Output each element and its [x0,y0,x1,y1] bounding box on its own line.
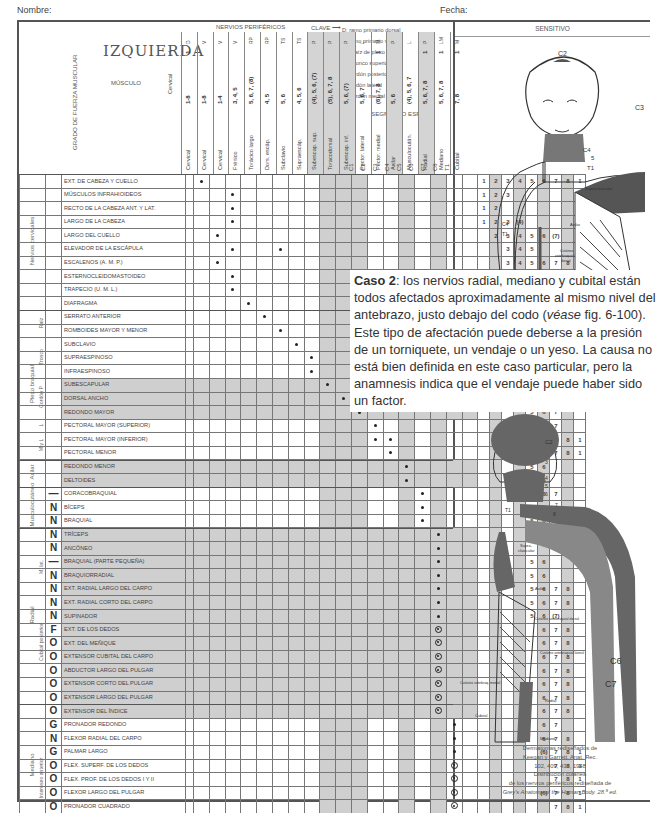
nerve-cell [351,487,367,501]
muscle-grade[interactable] [46,392,62,406]
muscle-grade[interactable]: O [46,773,62,787]
muscle-grade[interactable]: O [46,664,62,678]
muscle-grade[interactable]: G [46,718,62,732]
muscle-grade[interactable]: O [46,677,62,691]
nerve-cell [257,378,273,392]
muscle-grade[interactable]: N [46,542,62,556]
nerve-cell [209,270,225,284]
nerve-cervical-roots: 1-4 [217,95,223,104]
muscle-grade[interactable]: O [46,691,62,705]
nerve-cell [272,229,288,243]
muscle-grade[interactable] [46,338,62,352]
nerve-cell [209,215,225,229]
muscle-grade[interactable] [46,365,62,379]
muscle-grade[interactable] [46,175,62,189]
nerve-cell [304,542,320,556]
muscle-grade[interactable] [46,229,62,243]
nerve-cell [383,460,399,474]
muscle-grade[interactable] [46,406,62,420]
muscle-grade[interactable]: N [46,582,62,596]
nerve-cell [320,338,336,352]
muscle-grade[interactable] [46,460,62,474]
nerve-cell [241,202,257,216]
muscle-grade[interactable] [46,446,62,460]
nerve-cell [415,664,431,678]
nerve-cell [209,351,225,365]
nerve-cell [320,610,336,624]
muscle-grade[interactable]: N [46,501,62,515]
muscle-grade[interactable] [46,270,62,284]
muscle-grade[interactable] [46,351,62,365]
muscle-name: SERRATO ANTERIOR [62,310,186,324]
muscle-grade[interactable]: O [46,759,62,773]
muscle-grade[interactable]: F [46,623,62,637]
case-title: Caso 2 [354,273,396,288]
muscle-grade[interactable] [46,215,62,229]
nerve-cell [320,582,336,596]
muscle-grade[interactable] [46,188,62,202]
nerve-cell [399,637,415,651]
nerve-cell [351,745,367,759]
muscle-grade[interactable]: — [46,487,62,501]
muscle-grade[interactable] [46,433,62,447]
muscle-grade[interactable] [46,283,62,297]
nerve-cell [241,732,257,746]
muscle-grade[interactable] [46,378,62,392]
nerve-code: TS [296,38,302,44]
muscle-grade[interactable] [46,202,62,216]
nerve-cell [288,596,304,610]
nerve-cell [415,650,431,664]
muscle-name: PECTORAL MAYOR (SUPERIOR) [62,419,186,433]
muscle-grade[interactable] [46,256,62,270]
nerve-cell [430,514,446,528]
muscle-grade[interactable]: — [46,555,62,569]
muscle-grade[interactable]: N [46,514,62,528]
muscle-name: BRAQUIAL [62,514,186,528]
nerve-cell [194,691,210,705]
nerve-cell [399,732,415,746]
nerve-cell [209,542,225,556]
muscle-grade[interactable]: N [46,569,62,583]
nerve-cell [383,215,399,229]
nerve-cell [257,732,273,746]
muscle-grade[interactable]: O [46,650,62,664]
nerve-cell [209,650,225,664]
nerve-cell [288,677,304,691]
muscle-grade[interactable]: N [46,732,62,746]
nerve-cell [225,745,241,759]
nerve-name: Cervical [201,150,207,170]
nerve-cell [399,677,415,691]
muscle-grade[interactable]: O [46,705,62,719]
muscle-grade[interactable]: O [46,800,62,813]
nerve-code: V [232,41,238,44]
muscle-grade[interactable]: N [46,610,62,624]
muscle-grade[interactable]: N [46,596,62,610]
muscle-grade[interactable] [46,242,62,256]
nerve-cell [225,310,241,324]
nerve-cell [209,705,225,719]
nerve-cell [225,175,241,189]
segment-header: C6 [408,163,414,171]
muscle-grade[interactable] [46,297,62,311]
muscle-grade[interactable] [46,419,62,433]
nerve-cell [415,474,431,488]
dot-icon [342,397,345,400]
muscle-grade[interactable] [46,310,62,324]
muscle-grade[interactable] [46,324,62,338]
dot-icon [279,329,282,332]
dot-icon [421,506,424,509]
muscle-grade[interactable]: O [46,637,62,651]
muscle-grade[interactable]: N [46,528,62,542]
nerve-cell [304,310,320,324]
nerve-cell [272,596,288,610]
nerve-cell [209,338,225,352]
muscle-grade[interactable]: O [46,786,62,800]
dermatome-caption: Dermatomas rediseñados deKeegan y Garret… [475,744,645,797]
nerve-cell [257,338,273,352]
muscle-grade[interactable]: G [46,745,62,759]
muscle-grade[interactable] [46,474,62,488]
nerve-cell [194,623,210,637]
nerve-cell [194,242,210,256]
cervical-row-label: Cervical [167,74,173,94]
circled-dot-icon [435,639,442,646]
